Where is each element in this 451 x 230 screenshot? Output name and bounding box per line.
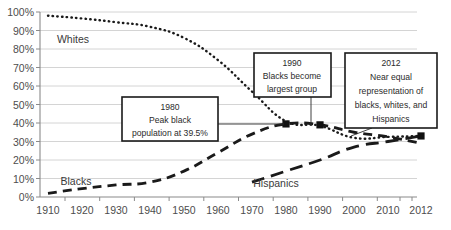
annotation-1980-line3: population at 39.5% (132, 128, 208, 138)
x-axis-labels: 1910 1920 1930 1940 1950 1960 1970 1980 … (36, 204, 433, 216)
x-tick-label: 2010 (376, 204, 400, 216)
annotation-1980-line1: 1980 (160, 102, 179, 112)
y-tick-label: 0% (19, 191, 34, 203)
x-tick-label: 1920 (70, 204, 94, 216)
x-tick-label: 1950 (172, 204, 196, 216)
annotation-1990-line2: Blacks become (263, 71, 321, 81)
y-tick-label: 80% (13, 43, 34, 55)
y-tick-label: 100% (7, 6, 34, 18)
chart-canvas: 100% 90% 80% 70% 60% 50% 40% 30% 20% 10%… (0, 0, 451, 230)
y-tick-label: 10% (13, 173, 34, 185)
annotation-2012-line4: blacks, whites, and (355, 100, 428, 110)
x-tick-label: 1980 (274, 204, 298, 216)
y-tick-label: 50% (13, 99, 34, 111)
x-tick-label: 1960 (206, 204, 230, 216)
y-tick-label: 90% (13, 25, 34, 37)
x-tick-label: 1930 (104, 204, 128, 216)
series-label-whites: Whites (57, 33, 89, 45)
y-tick-label: 60% (13, 80, 34, 92)
annotation-2012[interactable]: 2012 Near equal representation of blacks… (345, 53, 437, 128)
data-point-marker (316, 121, 323, 128)
x-tick-label: 2000 (342, 204, 366, 216)
y-tick-label: 30% (13, 136, 34, 148)
annotation-2012-line1: 2012 (381, 58, 400, 68)
annotation-2012-line2: Near equal (370, 72, 412, 82)
x-tick-label: 2012 (409, 204, 433, 216)
annotation-1990-line1: 1990 (282, 58, 301, 68)
series-label-hispanics: Hispanics (253, 177, 299, 189)
annotation-1980-line2: Peak black (149, 115, 192, 125)
series-label-blacks: Blacks (61, 175, 92, 187)
x-tickmarks (65, 197, 412, 201)
x-tick-label: 1990 (308, 204, 332, 216)
y-tickmarks (36, 12, 40, 197)
y-tick-label: 20% (13, 154, 34, 166)
y-tick-label: 40% (13, 117, 34, 129)
x-tick-label: 1910 (36, 204, 60, 216)
population-composition-chart: 100% 90% 80% 70% 60% 50% 40% 30% 20% 10%… (0, 0, 451, 230)
annotation-2012-line5: Hispanics (372, 114, 409, 124)
annotation-1990[interactable]: 1990 Blacks become largest group (254, 53, 331, 97)
annotation-1980[interactable]: 1980 Peak black population at 39.5% (122, 97, 218, 141)
series-line-blacks (48, 123, 421, 193)
data-point-marker (417, 132, 424, 139)
y-tick-label: 70% (13, 62, 34, 74)
y-axis-labels: 100% 90% 80% 70% 60% 50% 40% 30% 20% 10%… (7, 6, 34, 203)
x-tick-label: 1940 (138, 204, 162, 216)
annotation-1990-line3: largest group (267, 84, 317, 94)
series-line-hispanics (252, 136, 421, 182)
annotation-2012-line3: representation of (359, 86, 424, 96)
x-tick-label: 1970 (240, 204, 264, 216)
